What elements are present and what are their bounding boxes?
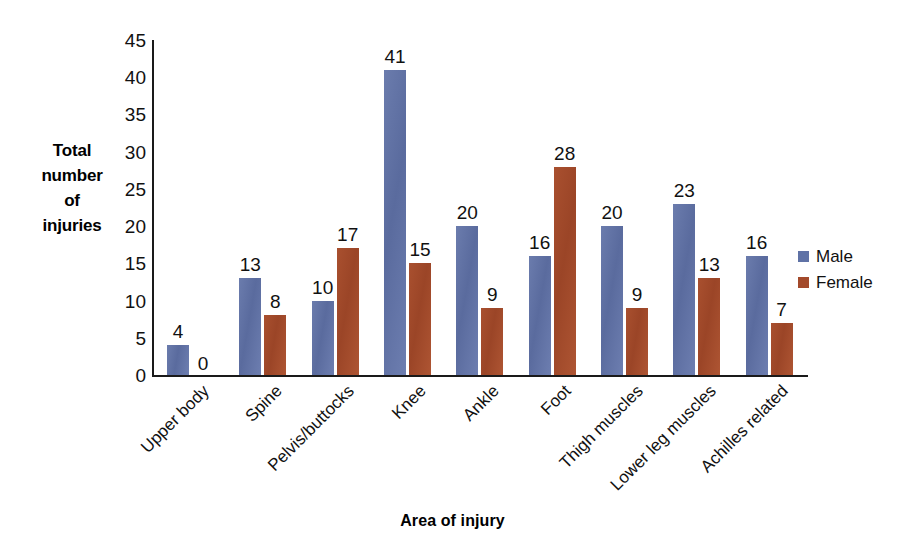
y-tick-label: 0 — [112, 366, 146, 385]
y-tick-label: 35 — [112, 105, 146, 124]
bar-female — [337, 248, 359, 375]
legend-label-male: Male — [816, 248, 853, 265]
bar-female — [626, 308, 648, 375]
bar-group: 1017 — [299, 40, 371, 375]
plot-area: 401381017411520916282092313167 — [154, 40, 805, 375]
bar-group: 138 — [226, 40, 298, 375]
bar-value-label: 7 — [762, 300, 802, 319]
legend-swatch-male-icon — [798, 251, 809, 262]
legend-label-female: Female — [816, 274, 873, 291]
y-tick-label: 10 — [112, 291, 146, 310]
bar-male — [312, 301, 334, 375]
x-axis-line — [152, 375, 808, 377]
bar-female — [409, 263, 431, 375]
bar-value-label: 13 — [689, 255, 729, 274]
y-tick-label: 5 — [112, 328, 146, 347]
y-tick-label: 20 — [112, 217, 146, 236]
bar-group: 209 — [443, 40, 515, 375]
bar-value-label: 17 — [328, 225, 368, 244]
bar-value-label: 15 — [400, 240, 440, 259]
bar-female — [264, 315, 286, 375]
bar-value-label: 4 — [158, 322, 198, 341]
x-tick-label: Spine — [242, 382, 285, 425]
x-tick-label: Knee — [389, 382, 430, 423]
y-axis-tick-labels: 051015202530354045 — [108, 40, 146, 376]
bar-group: 1628 — [516, 40, 588, 375]
legend-swatch-female-icon — [798, 277, 809, 288]
bar-value-label: 9 — [617, 285, 657, 304]
y-tick-label: 25 — [112, 179, 146, 198]
bar-value-label: 13 — [230, 255, 270, 274]
bar-value-label: 20 — [592, 203, 632, 222]
bar-female — [771, 323, 793, 375]
x-tick-label: Upper body — [138, 382, 213, 457]
x-tick-label: Foot — [538, 382, 575, 419]
x-axis-title: Area of injury — [0, 512, 905, 530]
bar-value-label: 28 — [545, 144, 585, 163]
bar-female — [554, 167, 576, 375]
bar-chart: Total number of injuries 051015202530354… — [0, 0, 905, 549]
y-tick-label: 40 — [112, 68, 146, 87]
bar-female — [698, 278, 720, 375]
x-tick-label: Ankle — [459, 382, 502, 425]
bar-group: 2313 — [660, 40, 732, 375]
bar-value-label: 16 — [737, 233, 777, 252]
legend-item-female: Female — [798, 269, 873, 295]
y-tick-label: 45 — [112, 31, 146, 50]
bar-male — [673, 204, 695, 375]
bar-value-label: 23 — [664, 181, 704, 200]
chart-legend: Male Female — [798, 243, 873, 295]
bar-group: 167 — [733, 40, 805, 375]
bar-value-label: 0 — [183, 354, 223, 373]
y-tick-label: 15 — [112, 254, 146, 273]
bar-value-label: 9 — [472, 285, 512, 304]
bar-male — [384, 70, 406, 375]
legend-item-male: Male — [798, 243, 873, 269]
bar-value-label: 20 — [447, 203, 487, 222]
bar-male — [529, 256, 551, 375]
y-tick-label: 30 — [112, 142, 146, 161]
bar-group: 4115 — [371, 40, 443, 375]
bar-group: 40 — [154, 40, 226, 375]
bar-group: 209 — [588, 40, 660, 375]
bar-value-label: 8 — [255, 292, 295, 311]
bar-female — [481, 308, 503, 375]
bar-value-label: 41 — [375, 47, 415, 66]
